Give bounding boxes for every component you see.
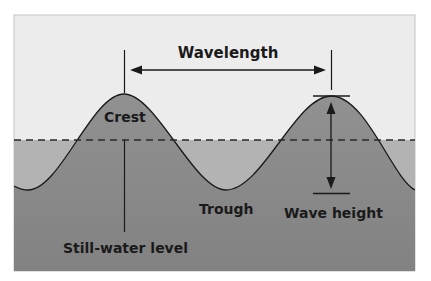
crest-label: Crest (104, 109, 146, 125)
wavelength-label: Wavelength (178, 44, 279, 62)
still-water-level-label: Still-water level (63, 240, 188, 256)
wave-diagram: Wavelength Crest Still-water level Troug… (0, 0, 431, 281)
wave-height-label: Wave height (284, 205, 383, 221)
trough-label: Trough (199, 201, 254, 217)
